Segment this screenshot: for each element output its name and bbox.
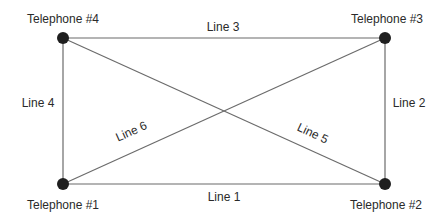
line-4-label: Line 4 [22, 96, 55, 110]
line-5-label: Line 5 [295, 120, 331, 147]
telephone-3-label: Telephone #3 [351, 12, 423, 26]
telephone-3-node [379, 32, 391, 44]
line-1-label: Line 1 [208, 190, 241, 204]
telephone-2-node [379, 178, 391, 190]
edges [63, 38, 385, 184]
telephone-1-node [57, 178, 69, 190]
telephone-2-label: Telephone #2 [350, 198, 422, 212]
line-6-label: Line 6 [114, 118, 150, 144]
telephone-4-node [57, 32, 69, 44]
line-2-label: Line 2 [393, 96, 426, 110]
telephone-4-label: Telephone #4 [27, 12, 99, 26]
telephone-network-diagram: Telephone #1 Telephone #2 Telephone #3 T… [0, 0, 445, 219]
line-3-label: Line 3 [207, 20, 240, 34]
telephone-1-label: Telephone #1 [27, 198, 99, 212]
